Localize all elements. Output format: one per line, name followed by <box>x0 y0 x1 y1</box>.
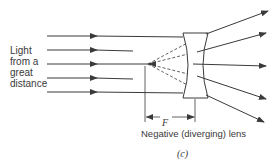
panel-label: (c) <box>177 148 188 159</box>
ray-4 <box>47 78 133 79</box>
incoming-rays <box>47 36 183 93</box>
ray-1 <box>47 36 183 37</box>
light-source-label: Light from a great distance <box>10 45 50 89</box>
diagram-canvas: Light from a great distance F Negative (… <box>0 0 278 164</box>
outgoing-rays <box>193 11 268 122</box>
lens-caption: Negative (diverging) lens <box>141 128 246 139</box>
focal-length-label: F <box>161 117 169 128</box>
ray-2 <box>47 50 133 51</box>
ray-5 <box>47 92 183 93</box>
diverging-lens <box>183 33 208 98</box>
